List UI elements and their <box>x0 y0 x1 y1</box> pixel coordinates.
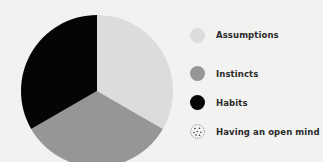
legend-swatch-icon <box>190 28 205 43</box>
legend-item-open-mind: Having an open mind <box>190 117 320 146</box>
legend: Assumptions Instincts Habits <box>190 24 320 146</box>
legend-swatch-icon <box>190 66 205 81</box>
legend-swatch-icon <box>190 95 205 110</box>
dotted-pattern-swatch-icon <box>190 124 205 139</box>
pie-chart: Assumptions Instincts Habits <box>0 0 323 162</box>
legend-label: Habits <box>216 98 248 108</box>
legend-item-habits: Habits <box>190 88 320 117</box>
legend-label: Assumptions <box>216 30 279 40</box>
legend-item-assumptions: Assumptions <box>190 24 320 46</box>
legend-item-instincts: Instincts <box>190 59 320 88</box>
pie-plot <box>0 0 180 162</box>
legend-label: Instincts <box>216 69 258 79</box>
legend-label: Having an open mind <box>216 127 320 137</box>
